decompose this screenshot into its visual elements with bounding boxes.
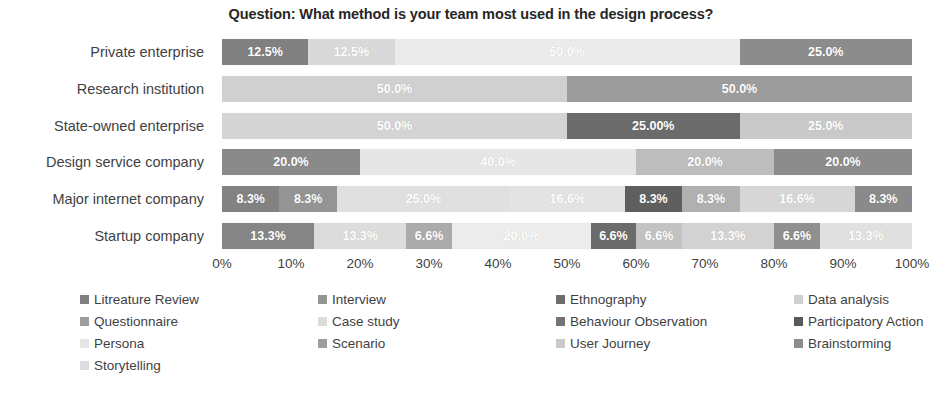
- chart-container: Question: What method is your team most …: [0, 0, 942, 397]
- legend-swatch-icon: [794, 317, 803, 326]
- category-label: Private enterprise: [0, 34, 212, 71]
- stacked-bar: 13.3%13.3%6.6%20.0%6.6%6.6%13.3%6.6%13.3…: [222, 223, 912, 249]
- legend-item[interactable]: Participatory Action: [794, 310, 924, 332]
- plot-area: 12.5%12.5%50.0%25.0%50.0%50.0%50.0%25.00…: [222, 34, 912, 254]
- bar-segment: 13.3%: [820, 223, 912, 249]
- bar-segment: 50.0%: [395, 39, 740, 65]
- bar-row: 12.5%12.5%50.0%25.0%: [222, 34, 912, 71]
- legend-item[interactable]: Interview: [318, 288, 556, 310]
- legend-item[interactable]: Litreature Review: [80, 288, 318, 310]
- bar-segment: 25.0%: [337, 186, 510, 212]
- legend-swatch-icon: [556, 295, 565, 304]
- legend-row: Storytelling: [80, 354, 942, 376]
- legend-swatch-icon: [80, 361, 89, 370]
- legend-item[interactable]: Data analysis: [794, 288, 889, 310]
- bar-segment: 8.3%: [222, 186, 279, 212]
- stacked-bar: 8.3%8.3%25.0%16.6%8.3%8.3%16.6%8.3%: [222, 186, 912, 212]
- bar-segment: 40.0%: [360, 149, 636, 175]
- x-axis-tick-label: 10%: [277, 256, 304, 271]
- legend-item[interactable]: Persona: [80, 332, 318, 354]
- bar-segment: 6.6%: [774, 223, 820, 249]
- bar-segment: 8.3%: [279, 186, 336, 212]
- legend-item[interactable]: Ethnography: [556, 288, 794, 310]
- legend-item[interactable]: Storytelling: [80, 354, 318, 376]
- legend-item[interactable]: Behaviour Observation: [556, 310, 794, 332]
- x-axis-tick-label: 50%: [553, 256, 580, 271]
- legend-swatch-icon: [556, 339, 565, 348]
- legend-label: Brainstorming: [808, 336, 891, 351]
- legend-item[interactable]: Scenario: [318, 332, 556, 354]
- bar-row: 20.0%40.0%20.0%20.0%: [222, 144, 912, 181]
- bar-segment: 25.0%: [740, 113, 913, 139]
- bar-segment: 25.00%: [567, 113, 740, 139]
- bar-segment: 8.3%: [855, 186, 912, 212]
- legend-item[interactable]: User Journey: [556, 332, 794, 354]
- x-axis-tick-label: 70%: [691, 256, 718, 271]
- legend-swatch-icon: [794, 295, 803, 304]
- bar-segment: 50.0%: [222, 76, 567, 102]
- bar-segment: 50.0%: [567, 76, 912, 102]
- category-label: Research institution: [0, 71, 212, 108]
- legend-swatch-icon: [318, 339, 327, 348]
- legend-row: PersonaScenarioUser JourneyBrainstorming: [80, 332, 942, 354]
- legend-label: Case study: [332, 314, 400, 329]
- bar-row: 8.3%8.3%25.0%16.6%8.3%8.3%16.6%8.3%: [222, 181, 912, 218]
- legend-label: Participatory Action: [808, 314, 924, 329]
- bar-segment: 8.3%: [682, 186, 739, 212]
- legend-swatch-icon: [80, 339, 89, 348]
- bar-segment: 8.3%: [625, 186, 682, 212]
- legend-label: Interview: [332, 292, 386, 307]
- legend-swatch-icon: [318, 317, 327, 326]
- x-axis-tick-label: 90%: [829, 256, 856, 271]
- bar-segment: 16.6%: [740, 186, 855, 212]
- legend-item[interactable]: Brainstorming: [794, 332, 891, 354]
- stacked-bar: 50.0%25.00%25.0%: [222, 113, 912, 139]
- bar-segment: 16.6%: [510, 186, 625, 212]
- x-axis-tick-label: 60%: [622, 256, 649, 271]
- chart-title: Question: What method is your team most …: [0, 6, 942, 22]
- x-axis-tick-label: 30%: [415, 256, 442, 271]
- category-label: State-owned enterprise: [0, 107, 212, 144]
- bar-row: 13.3%13.3%6.6%20.0%6.6%6.6%13.3%6.6%13.3…: [222, 217, 912, 254]
- legend-label: Data analysis: [808, 292, 889, 307]
- legend-label: Behaviour Observation: [570, 314, 707, 329]
- legend-swatch-icon: [80, 295, 89, 304]
- legend-swatch-icon: [794, 339, 803, 348]
- legend-item[interactable]: Questionnaire: [80, 310, 318, 332]
- bar-segment: 6.6%: [406, 223, 452, 249]
- legend-label: Questionnaire: [94, 314, 178, 329]
- bar-row: 50.0%50.0%: [222, 71, 912, 108]
- bar-segment: 6.6%: [591, 223, 637, 249]
- bar-segment: 20.0%: [222, 149, 360, 175]
- bar-segment: 6.6%: [636, 223, 682, 249]
- bar-segment: 12.5%: [222, 39, 308, 65]
- x-axis-tick-label: 100%: [895, 256, 930, 271]
- x-axis-tick-label: 20%: [346, 256, 373, 271]
- bar-segment: 25.0%: [740, 39, 913, 65]
- bar-segment: 20.0%: [452, 223, 591, 249]
- stacked-bar: 12.5%12.5%50.0%25.0%: [222, 39, 912, 65]
- legend-swatch-icon: [556, 317, 565, 326]
- legend-label: Storytelling: [94, 358, 161, 373]
- legend-label: User Journey: [570, 336, 650, 351]
- y-axis-category-labels: Private enterpriseResearch institutionSt…: [0, 34, 212, 254]
- legend-row: QuestionnaireCase studyBehaviour Observa…: [80, 310, 942, 332]
- legend-label: Scenario: [332, 336, 385, 351]
- legend-item[interactable]: Case study: [318, 310, 556, 332]
- legend-label: Ethnography: [570, 292, 647, 307]
- category-label: Major internet company: [0, 181, 212, 218]
- bar-segment: 20.0%: [636, 149, 774, 175]
- x-axis-tick-label: 40%: [484, 256, 511, 271]
- bar-segment: 13.3%: [222, 223, 314, 249]
- chart-legend: Litreature ReviewInterviewEthnographyDat…: [80, 288, 942, 376]
- bar-segment: 20.0%: [774, 149, 912, 175]
- legend-row: Litreature ReviewInterviewEthnographyDat…: [80, 288, 942, 310]
- x-axis-tick-label: 0%: [212, 256, 232, 271]
- legend-swatch-icon: [318, 295, 327, 304]
- x-axis-tick-label: 80%: [760, 256, 787, 271]
- stacked-bar: 20.0%40.0%20.0%20.0%: [222, 149, 912, 175]
- category-label: Startup company: [0, 217, 212, 254]
- bar-segment: 13.3%: [314, 223, 406, 249]
- stacked-bar: 50.0%50.0%: [222, 76, 912, 102]
- bar-segment: 12.5%: [308, 39, 394, 65]
